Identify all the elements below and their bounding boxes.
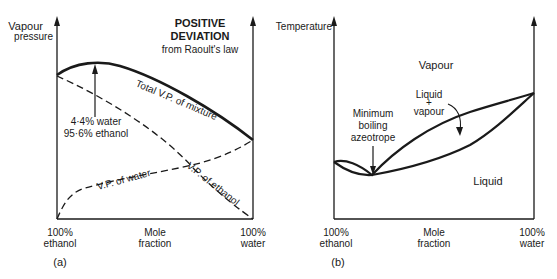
x-mid-label-line1: Mole	[144, 227, 166, 238]
y-axis-arrow-icon	[54, 16, 60, 26]
vp-ethanol-label: V.P. of ethanol	[185, 160, 242, 208]
x-right-label-line2: water	[519, 238, 545, 249]
title-line1: POSITIVE	[175, 17, 226, 29]
azeotrope-label-line2: boiling	[359, 120, 388, 131]
x-right-label-line2: water	[240, 238, 266, 249]
liquid-vapour-arrow-icon	[456, 127, 463, 136]
region-vapour-label: Vapour	[419, 59, 454, 71]
x-mid-label-line2: fraction	[139, 238, 172, 249]
x-left-label-line2: ethanol	[320, 238, 353, 249]
azeotrope-diagrams: Vapour pressure POSITIVE DEVIATION from …	[0, 0, 557, 279]
x-left-label-line1: 100%	[323, 227, 349, 238]
region-liquid-label: Liquid	[473, 175, 502, 187]
region-mix-label-line3: vapour	[414, 106, 445, 117]
x-left-label-line1: 100%	[47, 227, 73, 238]
azeotrope-arrow-icon	[92, 64, 98, 74]
x-right-label-line1: 100%	[519, 227, 545, 238]
azeotrope-label-line3: azeotrope	[351, 132, 396, 143]
panel-label-a: (a)	[53, 256, 66, 268]
x-mid-label-line2: fraction	[418, 238, 451, 249]
x-left-label-line2: ethanol	[44, 238, 77, 249]
diagram-b: Temperature Vapour Liquid + vapour Liqui…	[276, 16, 545, 268]
vp-water-label: V.P. of water	[96, 167, 153, 192]
panel-label-b: (b)	[331, 256, 344, 268]
azeotrope-composition-line1: 4·4% water	[71, 116, 122, 127]
total-vp-label: Total V.P. of mixture	[134, 78, 219, 122]
title-line3: from Raoult's law	[162, 44, 239, 55]
azeotrope-composition-line2: 95·6% ethanol	[64, 128, 129, 139]
right-axis-arrow-icon	[250, 16, 256, 26]
y-axis-label-line2: pressure	[14, 31, 53, 42]
diagram-a: Vapour pressure POSITIVE DEVIATION from …	[8, 16, 266, 268]
y-axis-label: Temperature	[276, 21, 333, 32]
x-right-label-line1: 100%	[240, 227, 266, 238]
x-mid-label-line1: Mole	[423, 227, 445, 238]
right-axis-arrow-icon	[531, 16, 537, 26]
title-line2: DEVIATION	[170, 30, 229, 42]
vp-water-curve	[57, 140, 253, 219]
azeotrope-label-line1: Minimum	[353, 108, 394, 119]
